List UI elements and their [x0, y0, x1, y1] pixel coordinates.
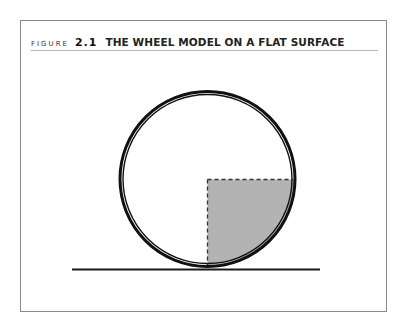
wheel-diagram	[0, 0, 408, 331]
